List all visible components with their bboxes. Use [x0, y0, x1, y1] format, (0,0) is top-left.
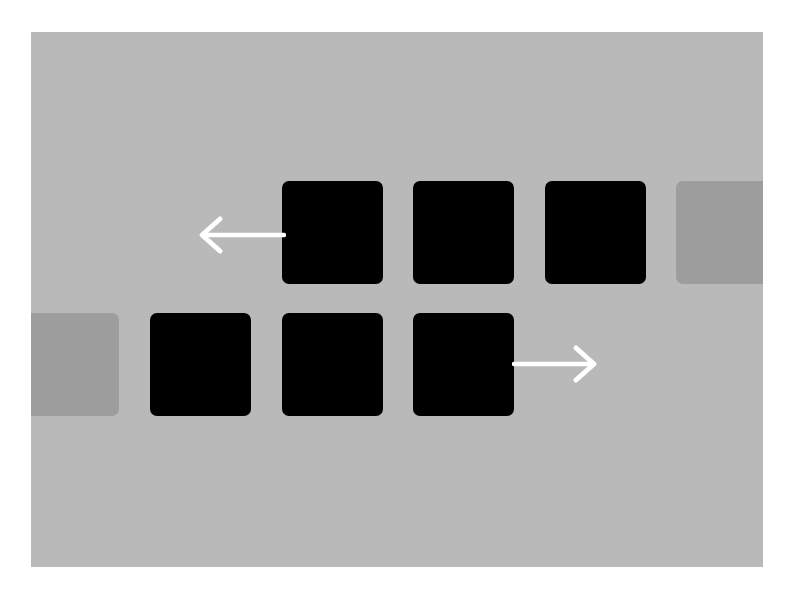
top-row-black-square-1 — [282, 181, 383, 284]
top-row-black-square-3 — [545, 181, 646, 284]
bottom-row-gray-square — [31, 313, 119, 416]
bottom-row-black-square-3 — [413, 313, 514, 416]
left-arrow-icon — [191, 214, 286, 256]
top-row-gray-square — [676, 181, 763, 284]
bottom-row-black-square-2 — [282, 313, 383, 416]
top-row-black-square-2 — [413, 181, 514, 284]
stimulus-panel — [31, 32, 763, 567]
bottom-row-black-square-1 — [150, 313, 251, 416]
right-arrow-icon — [512, 343, 604, 385]
